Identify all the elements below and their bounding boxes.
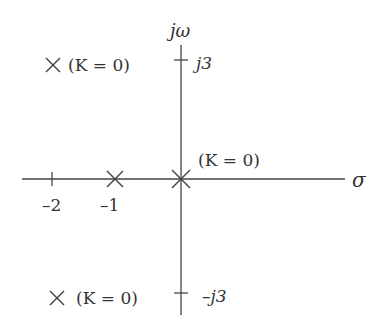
real-axis-label: σ [352,170,366,190]
origin-pole-label: (K = 0) [198,152,260,169]
tick-label-neg1: –1 [100,197,119,214]
tick-label-neg2: –2 [42,197,61,214]
root-locus-plot [0,0,386,330]
upper-pole-label: (K = 0) [68,57,130,74]
tick-label-j3-text: j3 [196,53,212,73]
tick-label-negj3-text: –j3 [202,286,227,306]
tick-label-negj3: –j3 [202,288,227,305]
pole-x-icon-lower [50,291,64,305]
lower-pole-label: (K = 0) [76,290,138,307]
imag-axis-label: jω [170,22,190,40]
pole-x-icon-upper [46,58,60,72]
tick-label-j3: j3 [196,55,212,72]
